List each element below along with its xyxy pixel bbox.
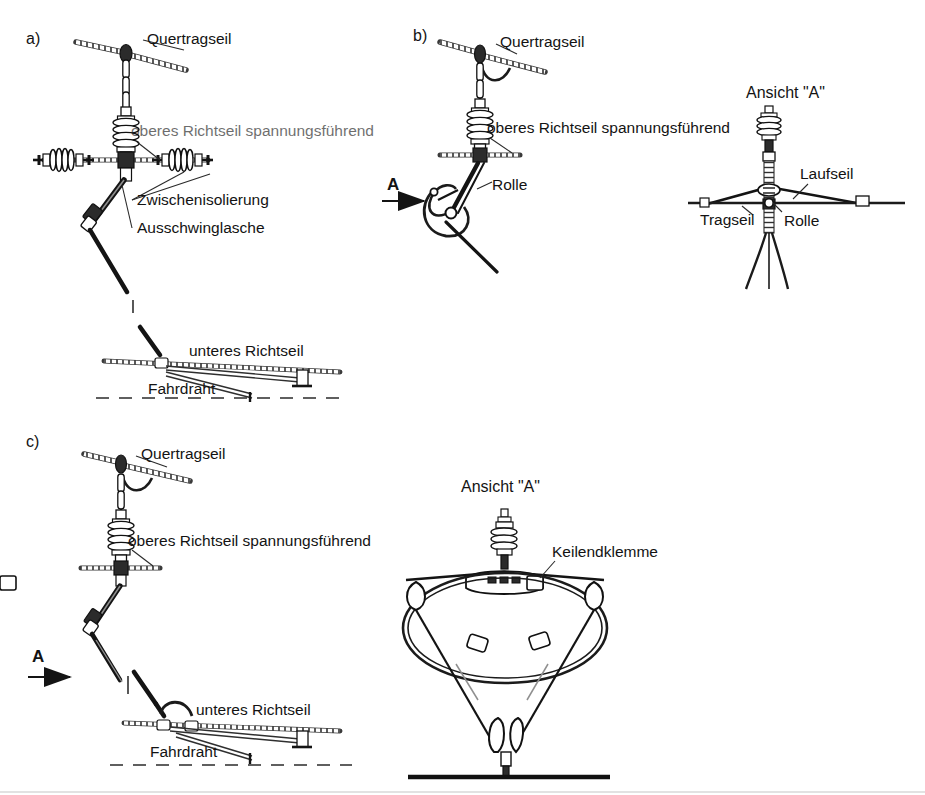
label-quertragseil-b: Quertragseil bbox=[500, 33, 584, 50]
ansicht-a-title-b: Ansicht "A" bbox=[746, 84, 825, 101]
label-ausschwinglasche-a: Ausschwinglasche bbox=[137, 219, 265, 236]
label-fahrdraht-a: Fahrdraht bbox=[148, 380, 216, 397]
label-quertragseil-c: Quertragseil bbox=[141, 445, 225, 462]
label-keilendklemme-c: Keilendklemme bbox=[552, 543, 658, 560]
panel-c-key: c) bbox=[26, 433, 39, 450]
label-oberes-richtseil-c: oberes Richtseil spannungsführend bbox=[128, 532, 371, 549]
view-arrow-label-c: A bbox=[32, 647, 44, 666]
label-rolle-b: Rolle bbox=[492, 176, 527, 193]
ansicht-a-title-c: Ansicht "A" bbox=[461, 478, 540, 495]
figure-canvas: a) bbox=[0, 0, 925, 795]
label-laufseil-b: Laufseil bbox=[800, 165, 853, 182]
technical-diagram: a) bbox=[0, 0, 925, 795]
label-zwischenisolierung-a: Zwischenisolierung bbox=[137, 191, 269, 208]
label-quertragseil-a: Quertragseil bbox=[147, 30, 231, 47]
label-fahrdraht-c: Fahrdraht bbox=[150, 743, 218, 760]
panel-b-key: b) bbox=[413, 27, 427, 44]
label-unteres-richtseil-c: unteres Richtseil bbox=[196, 701, 311, 718]
label-tragseil-b: Tragseil bbox=[700, 211, 755, 228]
label-unteres-richtseil-a: unteres Richtseil bbox=[189, 342, 304, 359]
label-oberes-richtseil-a: oberes Richtseil spannungsführend bbox=[131, 122, 374, 139]
rolle-front-b bbox=[765, 199, 773, 207]
panel-a-key: a) bbox=[26, 30, 40, 47]
label-rolle-front-b: Rolle bbox=[784, 212, 819, 229]
label-oberes-richtseil-b: oberes Richtseil spannungsführend bbox=[487, 119, 730, 136]
view-arrow-label-b: A bbox=[387, 175, 399, 194]
